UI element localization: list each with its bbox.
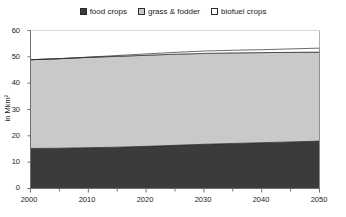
xtick-label-2030: 2030 xyxy=(188,196,218,204)
ytick-label-0: 0 xyxy=(6,184,20,192)
ytick-label-50: 50 xyxy=(6,53,20,61)
ytick-label-60: 60 xyxy=(6,27,20,35)
ytick-label-10: 10 xyxy=(6,158,20,166)
stacked-area-chart: food crops grass & fodder biofuel crops … xyxy=(0,0,346,217)
xtick-label-2050: 2050 xyxy=(304,196,334,204)
series-layer xyxy=(31,31,320,189)
xtick-label-2040: 2040 xyxy=(246,196,276,204)
xtick-label-2010: 2010 xyxy=(72,196,102,204)
plot-area: 0 10 20 30 40 50 60 2000 2010 2020 2030 … xyxy=(0,0,346,217)
y-axis-title: in Mkm² xyxy=(4,80,12,136)
xtick-label-2000: 2000 xyxy=(14,196,44,204)
xtick-label-2020: 2020 xyxy=(130,196,160,204)
plot-svg xyxy=(0,0,346,217)
area-series-1 xyxy=(31,52,320,148)
